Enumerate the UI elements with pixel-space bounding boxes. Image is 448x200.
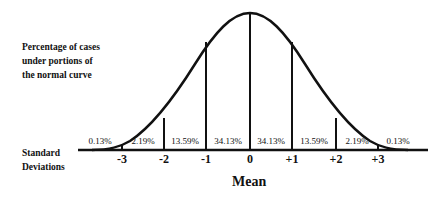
- tick-label: +1: [286, 152, 299, 167]
- tick-label: -3: [117, 152, 127, 167]
- axis-label: Standard Deviations: [22, 146, 65, 174]
- axis-label-line: Standard: [22, 146, 65, 160]
- tick-label: -1: [201, 152, 211, 167]
- percent-label: 0.13%: [88, 136, 111, 146]
- percent-label: 34.13%: [257, 136, 285, 146]
- percent-label: 2.19%: [345, 136, 368, 146]
- percent-label: 13.59%: [171, 136, 199, 146]
- axis-label-line: Deviations: [22, 160, 65, 174]
- percent-label: 13.59%: [300, 136, 328, 146]
- percent-label: 34.13%: [214, 136, 242, 146]
- mean-label: Mean: [232, 174, 266, 190]
- tick-label: +3: [372, 152, 385, 167]
- tick-label: -2: [159, 152, 169, 167]
- percent-label: 2.19%: [131, 136, 154, 146]
- normal-curve: [0, 0, 448, 200]
- tick-label: +2: [330, 152, 343, 167]
- percent-label: 0.13%: [386, 136, 409, 146]
- sd-lines: [122, 13, 378, 150]
- tick-label: 0: [247, 152, 253, 167]
